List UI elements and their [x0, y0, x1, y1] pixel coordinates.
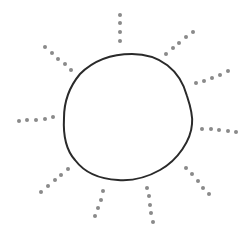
ray-dot	[66, 167, 70, 171]
ray-dot	[164, 52, 168, 56]
ray-dot	[51, 115, 55, 119]
ray-dot	[177, 41, 181, 45]
ray-dot	[202, 79, 206, 83]
ray-dot	[171, 46, 175, 50]
ray-dot	[59, 173, 63, 177]
ray-dot	[151, 220, 155, 224]
ray-dot	[43, 45, 47, 49]
ray-dot	[149, 211, 153, 215]
ray-dot	[63, 62, 67, 66]
ray-dot	[184, 166, 188, 170]
sun-illustration	[0, 0, 247, 230]
ray-dot	[234, 130, 238, 134]
ray-dot	[93, 214, 97, 218]
ray-dot	[218, 73, 222, 77]
ray-dot	[196, 179, 200, 183]
ray-dot	[210, 76, 214, 80]
ray-dot	[226, 129, 230, 133]
ray-dot	[148, 203, 152, 207]
ray-dot	[118, 13, 122, 17]
ray-dot	[194, 81, 198, 85]
ray-dot	[99, 198, 103, 202]
ray-dot	[147, 194, 151, 198]
ray-dot	[46, 184, 50, 188]
ray-dot	[226, 69, 230, 73]
ray-dot	[34, 118, 38, 122]
ray-dot	[217, 128, 221, 132]
ray-dot	[96, 206, 100, 210]
ray-dot	[56, 57, 60, 61]
ray-dot	[17, 119, 21, 123]
ray-dot	[184, 35, 188, 39]
ray-dot	[118, 30, 122, 34]
ray-dot	[190, 172, 194, 176]
ray-dot	[201, 186, 205, 190]
ray-dot	[118, 39, 122, 43]
ray-dot	[200, 127, 204, 131]
ray-dot	[50, 51, 54, 55]
ray-dot	[207, 192, 211, 196]
ray-dot	[25, 118, 29, 122]
ray-dot	[191, 30, 195, 34]
ray-dot	[53, 178, 57, 182]
ray-dot	[39, 190, 43, 194]
ray-dot	[69, 68, 73, 72]
ray-dot	[145, 186, 149, 190]
ray-dot	[118, 21, 122, 25]
ray-dot	[101, 189, 105, 193]
ray-dot	[43, 117, 47, 121]
ray-dot	[209, 127, 213, 131]
